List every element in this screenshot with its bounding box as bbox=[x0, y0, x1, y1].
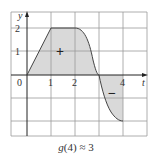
x-tick-1: 1 bbox=[48, 77, 53, 88]
y-tick-2: 2 bbox=[15, 23, 20, 34]
x-tick-2: 2 bbox=[72, 77, 77, 88]
x-tick-4: 4 bbox=[120, 77, 125, 88]
y-axis-label: y bbox=[17, 10, 23, 21]
caption-expression: (4) ≈ 3 bbox=[64, 141, 94, 153]
origin-label: 0 bbox=[17, 77, 22, 88]
figure-caption: g(4) ≈ 3 bbox=[0, 141, 152, 153]
y-tick-1: 1 bbox=[15, 46, 20, 57]
x-axis-label: t bbox=[142, 77, 145, 88]
graph-figure: y t 0 1 2 4 2 1 + − bbox=[0, 0, 152, 140]
minus-sign: − bbox=[108, 86, 116, 101]
plus-sign: + bbox=[56, 44, 64, 59]
